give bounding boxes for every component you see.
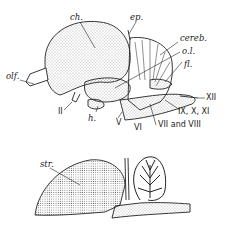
label-IX-X-XI: IX, X, XI <box>178 108 209 116</box>
label-olf: olf. <box>6 72 19 81</box>
cerebellar-arbor <box>134 157 166 201</box>
hypophysis <box>88 99 104 109</box>
label-fl: fl. <box>184 60 192 69</box>
label-cereb: cereb. <box>180 34 207 43</box>
label-VII-VIII: VII and VIII <box>158 121 201 129</box>
label-ep: ep. <box>130 13 143 22</box>
label-XII: XII <box>206 94 216 102</box>
label-str: str. <box>40 160 54 169</box>
label-VI: VI <box>134 124 142 132</box>
label-II: II <box>58 108 63 116</box>
optic-region <box>84 78 130 102</box>
sagittal-view <box>35 158 190 218</box>
label-ch: ch. <box>70 13 83 22</box>
lateral-view <box>26 21 198 120</box>
olfactory-bulb <box>26 68 48 86</box>
label-h: h. <box>88 114 96 123</box>
label-ol: o.l. <box>182 47 195 56</box>
label-V: V <box>116 119 121 127</box>
